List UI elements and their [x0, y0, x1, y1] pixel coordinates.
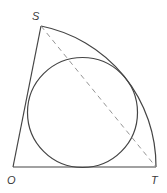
label-S: S	[32, 10, 40, 22]
sector-diagram: S O T	[0, 0, 167, 193]
label-O: O	[7, 174, 16, 186]
inscribed-circle	[28, 58, 138, 168]
label-T: T	[151, 174, 159, 186]
radius-OS	[13, 26, 41, 167]
chord-ST	[41, 26, 156, 167]
